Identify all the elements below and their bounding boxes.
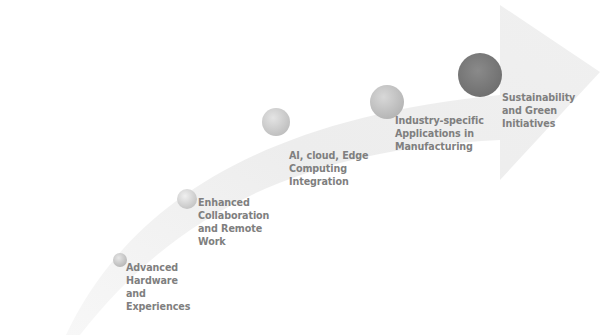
- step-1-circle-icon: [113, 253, 127, 267]
- step-5-circle-icon: [458, 53, 502, 97]
- step-2-label: Enhanced Collaboration and Remote Work: [198, 196, 269, 248]
- step-4-label: Industry-specific Applications in Manufa…: [395, 114, 484, 153]
- step-4-line-2: Applications in: [395, 127, 484, 140]
- step-3-line-1: AI, cloud, Edge: [289, 149, 369, 162]
- step-1-line-1: Advanced: [126, 261, 190, 274]
- step-3-line-3: Integration: [289, 175, 369, 188]
- step-2-line-4: Work: [198, 235, 269, 248]
- step-1-line-3: and: [126, 287, 190, 300]
- step-2-line-2: Collaboration: [198, 209, 269, 222]
- step-5-line-3: Initiatives: [502, 117, 575, 130]
- step-3-line-2: Computing: [289, 162, 369, 175]
- step-3-circle-icon: [262, 108, 290, 136]
- step-1-line-4: Experiences: [126, 300, 190, 313]
- step-5-line-2: and Green: [502, 104, 575, 117]
- step-4-line-3: Manufacturing: [395, 140, 484, 153]
- step-2-line-1: Enhanced: [198, 196, 269, 209]
- step-2-circle-icon: [177, 189, 197, 209]
- step-4-line-1: Industry-specific: [395, 114, 484, 127]
- step-3-label: AI, cloud, Edge Computing Integration: [289, 149, 369, 188]
- step-5-label: Sustainability and Green Initiatives: [502, 91, 575, 130]
- step-5-line-1: Sustainability: [502, 91, 575, 104]
- step-1-line-2: Hardware: [126, 274, 190, 287]
- step-2-line-3: and Remote: [198, 222, 269, 235]
- step-1-label: Advanced Hardware and Experiences: [126, 261, 190, 313]
